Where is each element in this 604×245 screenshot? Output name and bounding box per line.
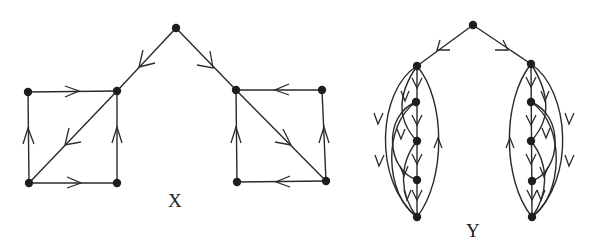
arrow-icon [397, 129, 405, 139]
edge-top-to-left [417, 25, 473, 66]
node [413, 176, 421, 184]
arrow-icon [404, 190, 411, 200]
node [172, 24, 180, 32]
arrowheads [23, 50, 329, 188]
node [113, 87, 121, 95]
edge [236, 90, 326, 181]
node [232, 86, 240, 94]
arrowheads [506, 77, 574, 200]
node [25, 179, 33, 187]
edge [236, 90, 237, 182]
edge [28, 91, 117, 92]
graph-figure: X [0, 0, 604, 245]
graph-y: Y [374, 21, 574, 241]
node [24, 88, 32, 96]
arrow-icon [542, 128, 550, 138]
y-left-cluster [374, 62, 442, 221]
arrow-icon [197, 51, 213, 68]
node [528, 213, 536, 221]
edge [237, 181, 326, 182]
arrow-icon [375, 155, 384, 166]
node [113, 179, 121, 187]
y-right-cluster [506, 60, 574, 221]
node [527, 60, 535, 68]
node [322, 177, 330, 185]
arrow-icon [565, 113, 574, 124]
graph-label-y: Y [466, 220, 480, 241]
arrowheads [374, 78, 442, 200]
edge [29, 91, 117, 183]
graph-label-x: X [168, 190, 182, 211]
graph-x: X [23, 24, 330, 211]
node [469, 21, 477, 29]
node [412, 98, 420, 106]
edge-top-to-right [473, 25, 531, 64]
arrow-icon [565, 155, 574, 166]
edge [531, 64, 563, 217]
node [528, 177, 536, 185]
node [413, 62, 421, 70]
node [527, 98, 535, 106]
node [527, 137, 535, 145]
edge [28, 92, 29, 183]
edge [385, 66, 417, 217]
arrow-icon [437, 40, 450, 50]
arrow-icon [537, 190, 545, 200]
edge-top-to-left [117, 28, 176, 91]
node [413, 137, 421, 145]
node [233, 178, 241, 186]
node [413, 213, 421, 221]
edge [322, 90, 326, 181]
edge-top-to-right [176, 28, 236, 90]
arrow-icon [374, 113, 383, 124]
node [318, 86, 326, 94]
